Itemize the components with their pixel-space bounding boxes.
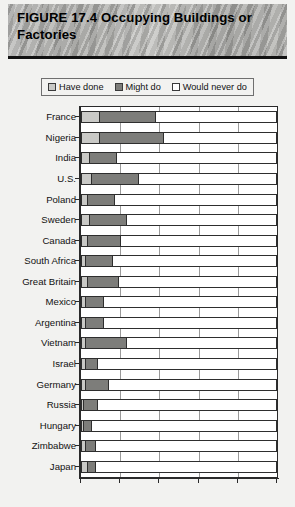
bar-segment (99, 111, 156, 123)
y-tick (75, 445, 79, 446)
y-tick (75, 281, 79, 282)
y-tick (75, 240, 79, 241)
y-tick (75, 342, 79, 343)
figure-banner: FIGURE 17.4 Occupying Buildings or Facto… (8, 4, 287, 56)
x-tick-0 (80, 479, 81, 483)
bar-row (81, 296, 279, 308)
y-tick (75, 137, 79, 138)
bar-row (81, 399, 279, 411)
y-tick (75, 301, 79, 302)
bar-segment (83, 420, 91, 432)
category-label: Zimbabwe (2, 440, 76, 451)
chart-plot-area (80, 106, 278, 478)
bar-segment (89, 214, 126, 226)
category-label: France (2, 111, 76, 122)
bar-segment (126, 337, 277, 349)
bar-segment (95, 440, 277, 452)
bar-row (81, 420, 279, 432)
bar-segment (97, 399, 277, 411)
bar-segment (91, 173, 138, 185)
y-tick (75, 157, 79, 158)
bar-segment (112, 255, 277, 267)
x-axis-line (80, 478, 279, 479)
legend-swatch-icon-have_done (48, 83, 56, 91)
bar-segment (85, 317, 103, 329)
bar-segment (95, 461, 277, 473)
category-label: Russia (2, 399, 76, 410)
bar-segment (85, 358, 97, 370)
y-tick (75, 404, 79, 405)
bar-segment (163, 132, 277, 144)
bar-segment (85, 296, 103, 308)
category-label: U.S. (2, 173, 76, 184)
x-tick-40 (158, 479, 159, 483)
bar-row (81, 235, 279, 247)
legend-item-would_never_do: Would never do (172, 82, 247, 92)
y-tick (75, 260, 79, 261)
bar-row (81, 194, 279, 206)
bar-row (81, 276, 279, 288)
y-tick (75, 384, 79, 385)
bar-segment (103, 317, 277, 329)
category-label: Nigeria (2, 132, 76, 143)
category-label: Mexico (2, 296, 76, 307)
banner-divider (8, 56, 287, 59)
bar-segment (118, 276, 277, 288)
bar-segment (85, 337, 126, 349)
category-label: Israel (2, 358, 76, 369)
bar-segment (81, 111, 99, 123)
bar-segment (87, 276, 118, 288)
legend-swatch-icon-might_do (115, 83, 123, 91)
y-tick (75, 466, 79, 467)
y-tick (75, 199, 79, 200)
bar-row (81, 132, 279, 144)
bar-row (81, 317, 279, 329)
bar-row (81, 337, 279, 349)
bar-segment (89, 152, 116, 164)
y-tick (75, 178, 79, 179)
bar-row (81, 379, 279, 391)
bar-segment (116, 152, 277, 164)
category-label: South Africa (2, 255, 76, 266)
bar-segment (83, 399, 97, 411)
bar-row (81, 461, 279, 473)
bar-segment (81, 132, 99, 144)
y-axis-line (79, 106, 80, 479)
legend-label-might_do: Might do (126, 82, 161, 92)
bar-segment (91, 420, 277, 432)
y-tick (75, 116, 79, 117)
legend-label-would_never_do: Would never do (183, 82, 247, 92)
chart-legend: Have doneMight doWould never do (41, 78, 254, 96)
legend-label-have_done: Have done (59, 82, 103, 92)
bar-segment (85, 379, 109, 391)
x-tick-100 (276, 479, 277, 483)
bar-segment (97, 358, 277, 370)
y-tick (75, 219, 79, 220)
legend-item-have_done: Have done (48, 82, 103, 92)
bar-segment (87, 235, 120, 247)
category-label: Japan (2, 461, 76, 472)
bar-row (81, 214, 279, 226)
bar-row (81, 152, 279, 164)
bar-segment (99, 132, 164, 144)
bar-segment (120, 235, 277, 247)
bar-segment (87, 194, 114, 206)
x-tick-80 (237, 479, 238, 483)
bar-row (81, 111, 279, 123)
category-label: Vietnam (2, 337, 76, 348)
category-label: India (2, 152, 76, 163)
category-label: Great Britain (2, 276, 76, 287)
bar-row (81, 173, 279, 185)
category-axis-labels: FranceNigeriaIndiaU.S.PolandSwedenCanada… (0, 106, 76, 478)
bar-row (81, 358, 279, 370)
y-tick (75, 363, 79, 364)
legend-swatch-icon-would_never_do (172, 83, 180, 91)
bar-segment (103, 296, 277, 308)
legend-item-might_do: Might do (115, 82, 161, 92)
bar-row (81, 255, 279, 267)
category-label: Argentina (2, 317, 76, 328)
bar-segment (108, 379, 277, 391)
bar-segment (81, 152, 89, 164)
bar-segment (155, 111, 277, 123)
bar-segment (138, 173, 277, 185)
